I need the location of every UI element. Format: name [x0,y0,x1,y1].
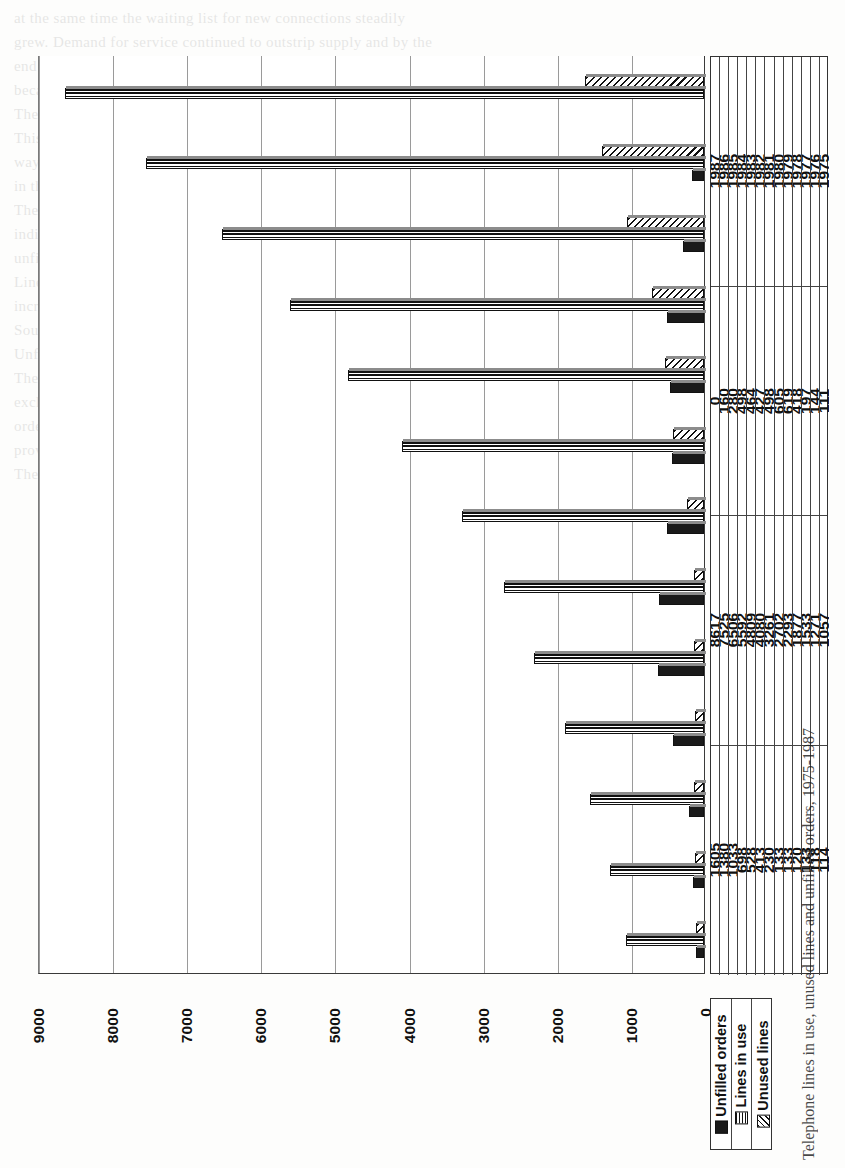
chart-bar [689,806,704,817]
table-cell: 1033 [729,746,738,976]
table-cell-value: 1033 [729,843,738,877]
table-cell-value: 498 [738,388,747,414]
table-cell: 1605 [711,746,720,976]
chart-bar-group [39,338,704,409]
table-cell-value: 427 [756,388,765,414]
table-cell-value: 111 [820,389,829,413]
legend-item[interactable]: Lines in use [732,999,753,1149]
table-cell-value: 605 [775,388,784,414]
chart-bar [658,665,704,676]
table-cell-value: 464 [747,388,756,414]
table-cell: 133 [775,746,784,976]
chart-bar-group [39,692,704,763]
chart-bar-group [39,550,704,621]
table-cell-value: 1057 [820,613,829,647]
table-cell: 4809 [747,516,756,745]
table-cell: 1975 [820,57,829,286]
table-cell-value: 197 [802,388,811,414]
table-cell-value: 619 [784,388,793,414]
chart-bar [667,523,704,534]
table-cell-value: 2702 [775,613,784,647]
value-axis-tick-label: 6000 [252,1008,270,1043]
table-cell: 7525 [720,516,729,745]
chart-bar-group [39,480,704,551]
table-cell-value: 2293 [784,613,793,647]
table-cell-value: 418 [793,388,802,414]
chart-plot-area [38,56,705,974]
chart-bar [683,241,704,252]
table-cell-value: 1983 [747,154,756,188]
table-cell-value: 160 [720,388,729,414]
table-cell: 1977 [802,57,811,286]
chart-bar-group [39,903,704,974]
table-cell-value: 1976 [811,154,820,188]
table-row-lines-in-use: 8617752565065592480940803261270222931877… [711,516,827,746]
table-cell: 1057 [820,516,829,745]
table-cell: 1380 [720,746,729,976]
table-cell-value: 1533 [802,613,811,647]
value-axis-tick-label: 9000 [30,1008,48,1043]
chart-bar [692,170,704,181]
value-axis-tick-label: 5000 [326,1008,344,1043]
table-cell: 498 [765,287,774,516]
chart-bar [673,735,704,746]
legend-item-label: Unfilled orders [713,1014,729,1116]
table-cell: 160 [720,287,729,516]
table-cell-value: 133 [784,847,793,873]
value-axis-tick-label: 2000 [549,1008,567,1043]
chart-bar [146,158,704,169]
table-cell-value: 4080 [756,613,765,647]
table-cell-value: 1877 [793,613,802,647]
table-cell-value: 1985 [729,154,738,188]
chart-bar [670,382,704,393]
table-cell: 6506 [729,516,738,745]
chart-bar [610,865,704,876]
table-cell: 280 [729,287,738,516]
chart-bar-group [39,268,704,339]
table-cell: 619 [784,287,793,516]
table-cell: 1533 [802,516,811,745]
table-cell: 427 [756,287,765,516]
table-cell: 1987 [711,57,720,286]
table-cell: 1980 [775,57,784,286]
table-cell: 8617 [711,516,720,745]
table-cell-value: 1271 [811,613,820,647]
value-axis-tick-label: 3000 [475,1008,493,1043]
table-cell: 1982 [756,57,765,286]
table-cell-value: 5592 [738,613,747,647]
chart-bar [222,229,704,240]
table-cell-value: 1605 [711,843,720,877]
table-cell-value: 1980 [775,154,784,188]
legend-item[interactable]: Unused lines [752,999,773,1149]
table-row-unfilled-orders: 0160280498464427498605619418197144111 [711,287,827,517]
legend-item[interactable]: Unfilled orders [711,999,732,1149]
table-cell: 114 [820,746,829,976]
chart-bar [659,594,704,605]
table-cell: 230 [765,746,774,976]
chart-bar-group [39,127,704,198]
table-cell: 1985 [729,57,738,286]
chart-bar [667,312,704,323]
table-cell-value: 1981 [765,154,774,188]
chart-bar-group [39,197,704,268]
table-cell-value: 1982 [756,154,765,188]
table-cell-value: 1975 [820,154,829,188]
table-cell: 1986 [720,57,729,286]
table-cell-value: 144 [811,388,820,414]
table-cell-value: 1977 [802,154,811,188]
chart-bar-group [39,621,704,692]
table-cell-value: 114 [820,848,829,873]
table-cell-value: 4809 [747,613,756,647]
legend-swatch-icon [714,1121,727,1134]
table-cell: 0 [711,287,720,516]
value-axis-tick-label: 1000 [623,1008,641,1043]
table-cell: 5592 [738,516,747,745]
table-cell-value: 280 [729,388,738,414]
table-cell-value: 413 [756,847,765,873]
value-axis-tick-label: 8000 [104,1008,122,1043]
table-cell-value: 133 [775,847,784,873]
table-cell: 197 [802,287,811,516]
table-cell: 498 [738,287,747,516]
table-cell-value: 1380 [720,843,729,877]
table-cell-value: 1978 [793,154,802,188]
